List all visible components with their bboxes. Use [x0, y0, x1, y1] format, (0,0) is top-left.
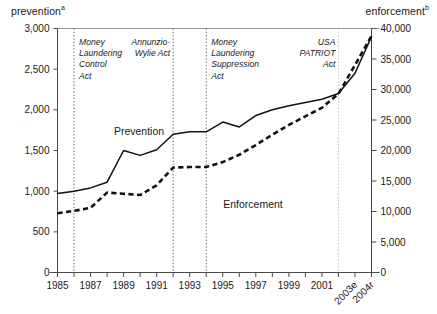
- x-axis-tick-label: 1993: [179, 280, 202, 291]
- y2-axis-tick-label: 25,000: [381, 115, 412, 126]
- y2-axis-tick-label: 35,000: [381, 54, 412, 65]
- y-axis-tick-label: 3,000: [24, 23, 49, 34]
- y2-axis-tick-label: 20,000: [381, 145, 412, 156]
- left-axis-group: 05001,0001,5002,0002,5003,000: [24, 23, 57, 278]
- y-axis-tick-label: 0: [44, 267, 50, 278]
- event-annotation-line: Act: [78, 71, 92, 81]
- x-axis-tick-label: 2001: [311, 280, 334, 291]
- right-axis-group: 05,00010,00015,00020,00025,00030,00035,0…: [372, 23, 412, 278]
- y-axis-tick-label: 2,000: [24, 104, 49, 115]
- y2-axis-tick-label: 5,000: [381, 237, 406, 248]
- event-annotation-line: Suppression: [211, 59, 259, 69]
- x-axis-tick-label: 1985: [46, 280, 69, 291]
- series-label-enforcement: Enforcement: [223, 198, 283, 210]
- y-axis-tick-label: 1,500: [24, 145, 49, 156]
- x-axis-tick-label: 1997: [245, 280, 268, 291]
- event-annotation-line: Wylie Act: [135, 48, 171, 58]
- series-label-prevention: Prevention: [114, 125, 164, 137]
- event-annotation-line: PATRIOT: [299, 48, 336, 58]
- y-axis-tick-label: 1,000: [24, 186, 49, 197]
- event-annotations-group: MoneyLaunderingControlActAnnunzio-Wylie …: [78, 37, 336, 81]
- event-annotation-line: Money: [211, 37, 237, 47]
- x-axis-tick-label: 1999: [278, 280, 301, 291]
- x-axis-group: 1985198719891991199319951997199920012003…: [46, 273, 379, 307]
- event-annotation-line: Money: [79, 37, 105, 47]
- event-annotation-line: Laundering: [211, 48, 254, 58]
- y2-axis-tick-label: 15,000: [381, 176, 412, 187]
- x-axis-tick-label: 1989: [112, 280, 135, 291]
- y-axis-tick-label: 2,500: [24, 64, 49, 75]
- chart-plot-area: 05001,0001,5002,0002,5003,000 05,00010,0…: [0, 0, 437, 314]
- y-axis-tick-label: 500: [33, 226, 50, 237]
- x-axis-tick-label: 1995: [212, 280, 235, 291]
- y2-axis-tick-label: 0: [381, 267, 387, 278]
- event-annotation-line: Laundering: [79, 48, 122, 58]
- y2-axis-tick-label: 10,000: [381, 206, 412, 217]
- chart-container: preventiona enforcementb 05001,0001,5002…: [0, 0, 437, 314]
- event-rules-group: [74, 29, 338, 273]
- event-annotation-line: Act: [322, 59, 336, 69]
- event-annotation-line: Control: [79, 59, 108, 69]
- event-annotation-line: Annunzio-: [130, 37, 170, 47]
- x-axis-tick-label: 1991: [146, 280, 169, 291]
- x-axis-tick-label: 1987: [79, 280, 102, 291]
- y2-axis-tick-label: 30,000: [381, 84, 412, 95]
- y2-axis-tick-label: 40,000: [381, 23, 412, 34]
- event-annotation-line: USA: [318, 37, 336, 47]
- event-annotation-line: Act: [210, 71, 224, 81]
